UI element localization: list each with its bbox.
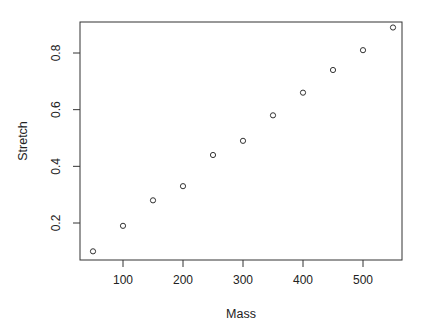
data-point-marker xyxy=(90,249,95,254)
y-axis-title: Stretch xyxy=(16,121,30,161)
x-tick-label: 200 xyxy=(173,273,193,287)
plot-frame xyxy=(80,22,402,260)
x-tick-label: 400 xyxy=(293,273,313,287)
data-point-marker xyxy=(120,223,125,228)
data-points xyxy=(90,25,395,254)
data-point-marker xyxy=(210,152,215,157)
x-axis-title: Mass xyxy=(226,307,256,321)
data-point-marker xyxy=(330,67,335,72)
x-axis: 100200300400500 xyxy=(113,260,373,287)
data-point-marker xyxy=(390,25,395,30)
y-tick-label: 0.8 xyxy=(49,44,63,61)
x-tick-label: 100 xyxy=(113,273,133,287)
y-axis: 0.20.40.60.8 xyxy=(49,44,80,231)
data-point-marker xyxy=(270,113,275,118)
y-tick-label: 0.6 xyxy=(49,101,63,118)
data-point-marker xyxy=(180,184,185,189)
y-tick-label: 0.4 xyxy=(49,158,63,175)
data-point-marker xyxy=(150,198,155,203)
x-tick-label: 300 xyxy=(233,273,253,287)
scatter-plot: 100200300400500 0.20.40.60.8 Mass Stretc… xyxy=(0,0,421,332)
x-tick-label: 500 xyxy=(353,273,373,287)
data-point-marker xyxy=(240,138,245,143)
data-point-marker xyxy=(300,90,305,95)
y-tick-label: 0.2 xyxy=(49,214,63,231)
data-point-marker xyxy=(360,48,365,53)
